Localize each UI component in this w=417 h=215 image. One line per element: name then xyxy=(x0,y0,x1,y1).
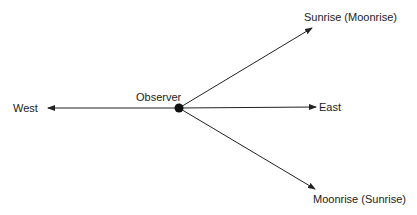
east-arrow xyxy=(179,107,316,108)
diagram-lines xyxy=(0,0,417,215)
east-label: East xyxy=(319,102,341,113)
observer-dot xyxy=(175,104,184,113)
west-label: West xyxy=(13,103,38,114)
sunrise-arrow xyxy=(179,28,312,108)
moonrise-label: Moonrise (Sunrise) xyxy=(313,194,406,205)
observer-label: Observer xyxy=(136,92,181,103)
moonrise-arrow xyxy=(179,108,315,189)
rise-direction-diagram: Observer West East Sunrise (Moonrise) Mo… xyxy=(0,0,417,215)
sunrise-label: Sunrise (Moonrise) xyxy=(304,12,397,23)
